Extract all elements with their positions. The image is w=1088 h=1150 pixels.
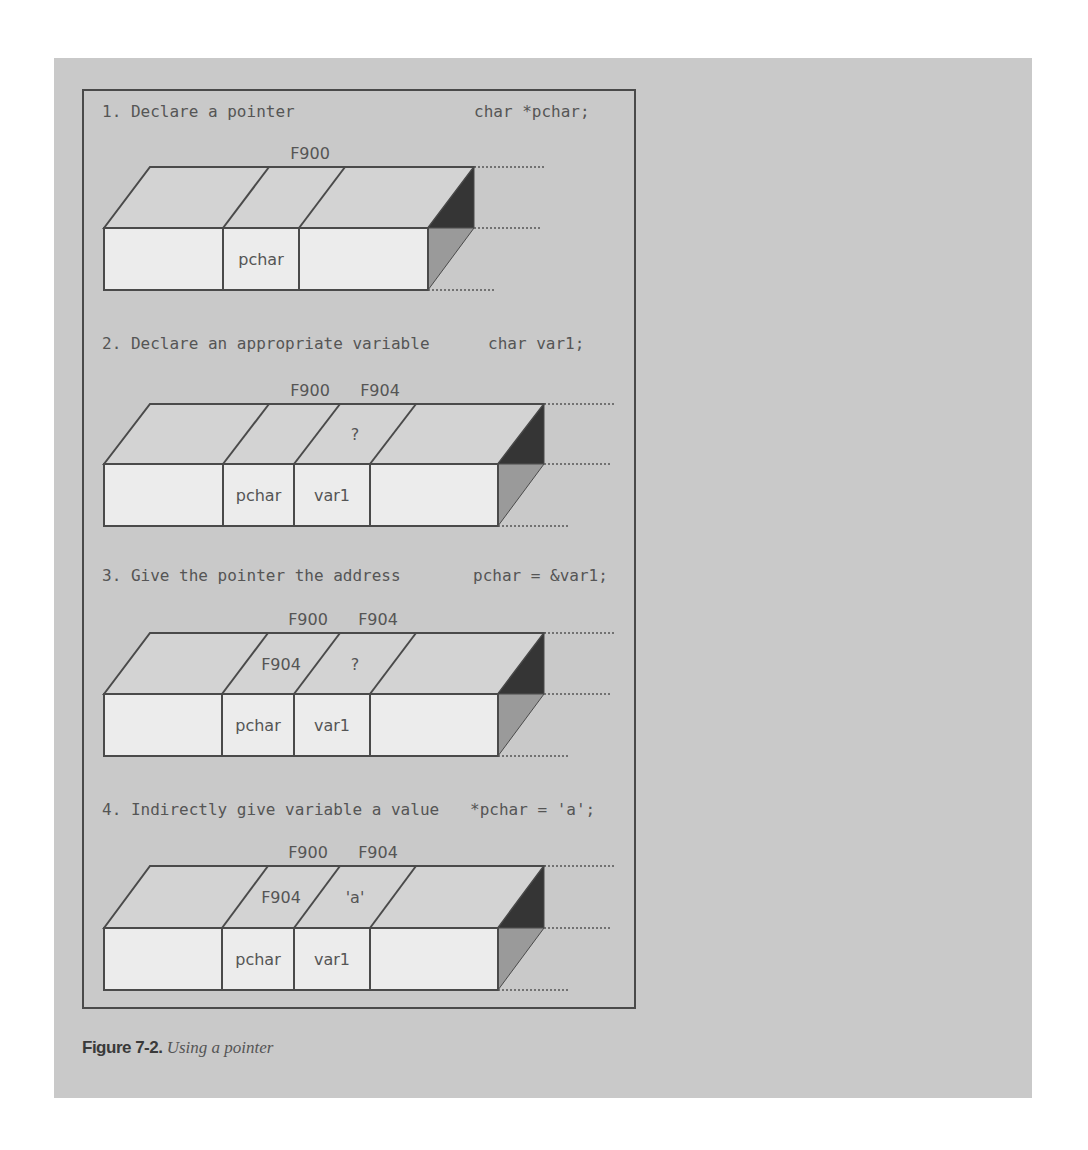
top-face [104,633,544,694]
memory-diagrams: F900pcharF900F904pcharvar1?F900F904pchar… [0,0,1088,1150]
shadow-side [498,464,544,526]
address-label: F900 [288,610,328,629]
memory-cell [370,928,498,990]
address-label: F904 [358,610,398,629]
cell-name: pchar [236,486,282,505]
cell-value: F904 [261,655,301,674]
memory-cell [104,694,222,756]
memory-cell [299,228,428,290]
cell-name: var1 [314,716,350,735]
cell-value: F904 [261,888,301,907]
memory-cell [370,464,498,526]
memory-cell [104,464,223,526]
memory-cell [104,228,223,290]
address-label: F900 [288,843,328,862]
shadow-side [498,694,544,756]
cell-value: ? [351,425,360,444]
caption-text: Using a pointer [162,1038,273,1057]
shadow-side [498,928,544,990]
top-face [104,167,474,228]
cell-value: ? [351,655,360,674]
top-face [104,404,544,464]
cell-name: pchar [238,250,284,269]
cell-name: var1 [314,950,350,969]
caption-label: Figure 7-2. [82,1038,162,1057]
cell-name: var1 [314,486,350,505]
figure-caption: Figure 7-2. Using a pointer [82,1037,273,1058]
address-label: F900 [290,381,330,400]
cell-name: pchar [235,716,281,735]
shadow-side [428,228,474,290]
cell-name: pchar [235,950,281,969]
address-label: F904 [360,381,400,400]
cell-value: 'a' [346,888,365,907]
address-label: F904 [358,843,398,862]
address-label: F900 [290,144,330,163]
memory-cell [370,694,498,756]
top-face [104,866,544,928]
memory-cell [104,928,222,990]
